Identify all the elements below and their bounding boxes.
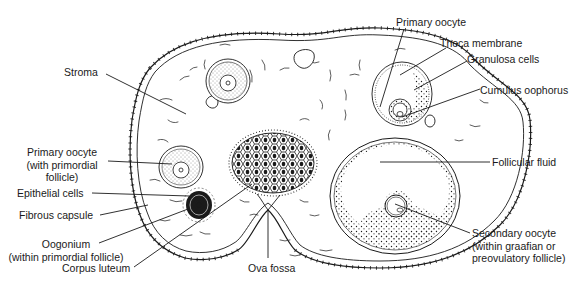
label-line: follicle) (22, 171, 102, 184)
label-fibrous-capsule: Fibrous capsule (19, 209, 93, 222)
label-line: (within graafian or (472, 240, 565, 253)
label-epithelial-cells: Epithelial cells (17, 187, 84, 200)
label-line: (with primordial (22, 159, 102, 172)
growing-follicle (372, 62, 432, 126)
vessel (425, 115, 435, 127)
label-stroma: Stroma (64, 66, 98, 79)
label-secondary-oocyte: Secondary oocyte (within graafian or pre… (472, 227, 565, 265)
label-line: Oogonium (6, 238, 126, 251)
label-line: preovulatory follicle) (472, 252, 565, 265)
label-primary-oocyte-right: Primary oocyte (396, 16, 466, 29)
primordial-follicle-left (159, 146, 203, 188)
label-oogonium: Oogonium (within primordial follicle) (6, 238, 126, 263)
label-follicular-fluid: Follicular fluid (492, 156, 556, 169)
label-line: Secondary oocyte (472, 227, 565, 240)
label-ova-fossa: Ova fossa (248, 262, 295, 275)
label-cumulus-oophorus: Cumulus oophorus (480, 84, 568, 97)
label-granulosa-cells: Granulosa cells (467, 53, 539, 66)
graafian-follicle (330, 138, 460, 254)
label-line: Primary oocyte (22, 146, 102, 159)
label-theca-membrane: Theca membrane (440, 37, 522, 50)
primordial-follicle-upper (206, 59, 250, 103)
label-corpus-luteum: Corpus luteum (62, 262, 130, 275)
label-primary-oocyte-primordial: Primary oocyte (with primordial follicle… (22, 146, 102, 184)
